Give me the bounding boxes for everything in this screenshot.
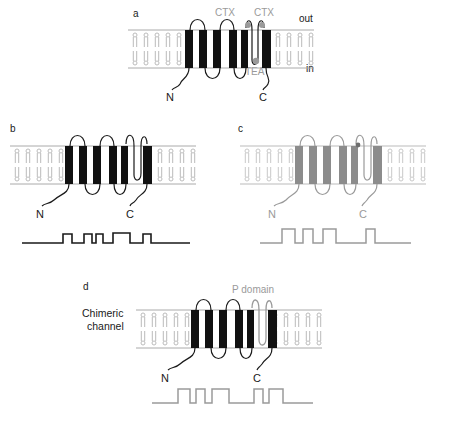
c-terminus-tail [130,184,147,206]
helix-s1 [65,146,73,184]
helix-s5 [121,146,128,184]
helix-s6 [262,30,271,68]
helix-s1 [191,310,199,348]
lipid-bilayer-right [265,33,313,65]
lipid-bilayer-right [147,149,195,181]
panel-d: d Chimeric channel P domain N C [0,262,450,425]
helix-s2 [79,146,87,184]
panel-b-helices [65,146,152,184]
helix-s6 [268,310,277,348]
c-terminus-tail [362,184,377,206]
current-trace-c [260,229,411,243]
helix-s2 [309,146,317,184]
panel-a: a CTX CTX TEA out in N C [0,0,450,115]
lipid-bilayer-left [133,33,181,65]
c-terminus-tail [263,68,269,90]
pore-marker-dot [356,143,361,148]
current-trace-b [22,233,190,243]
panel-b-graphic [0,115,225,260]
panel-c: c N C [225,115,450,260]
panel-b-termini [42,184,147,206]
helix-s4 [235,310,243,348]
c-terminus-tail [257,348,272,370]
helix-s4 [109,146,117,184]
panel-d-termini [168,348,272,370]
lipid-bilayer-right [377,149,425,181]
n-terminus-tail [42,184,69,206]
helix-s2 [199,30,207,68]
helix-s3 [93,146,101,184]
figure-canvas: a CTX CTX TEA out in N C [0,0,450,425]
n-terminus-tail [172,68,189,90]
helix-s5 [351,146,358,184]
panel-d-helices [191,310,277,348]
helix-s6 [143,146,152,184]
helix-s6 [373,146,382,184]
ctx-dot-2 [259,22,265,28]
helix-s4 [229,30,237,68]
helix-s3 [323,146,331,184]
panel-a-termini [172,68,269,90]
panel-b: b N C [0,115,225,260]
lipid-bilayer-left [245,149,293,181]
helix-s3 [213,30,221,68]
tea-dot [253,58,259,64]
panel-c-graphic [225,115,450,260]
lipid-bilayer-left [15,149,63,181]
ctx-dot-1 [245,22,251,28]
helix-s1 [185,30,193,68]
helix-s4 [339,146,347,184]
helix-s5 [247,310,254,348]
helix-s1 [295,146,303,184]
lipid-bilayer-left [141,313,189,345]
panel-c-termini [274,184,377,206]
panel-c-helices [295,146,382,184]
n-terminus-tail [274,184,299,206]
helix-s3 [219,310,227,348]
helix-s5 [241,30,248,68]
panel-a-graphic [0,0,450,115]
n-terminus-tail [168,348,195,370]
current-trace-d [152,389,313,403]
helix-s2 [205,310,213,348]
lipid-bilayer-right [273,313,321,345]
panel-d-graphic [0,262,450,425]
